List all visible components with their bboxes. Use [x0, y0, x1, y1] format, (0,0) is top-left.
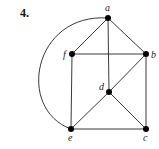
edge-f-e	[71, 54, 72, 129]
vertex-label-d: d	[99, 81, 105, 92]
edge-a-b	[108, 18, 146, 54]
vertex-label-a: a	[105, 2, 110, 13]
graph-diagram: abcdef	[0, 0, 159, 149]
graph-figure: 4. abcdef	[0, 0, 159, 149]
edge-a-d	[108, 18, 109, 92]
vertex-label-f: f	[63, 49, 67, 60]
edge-d-e	[71, 92, 109, 129]
edge-b-d	[109, 54, 146, 92]
vertex-b	[143, 51, 149, 57]
vertex-label-e: e	[68, 132, 73, 143]
vertex-d	[106, 89, 112, 95]
edge-a-e	[39, 18, 108, 129]
edge-d-c	[109, 92, 146, 129]
graph-labels: abcdef	[63, 2, 156, 143]
vertex-label-c: c	[143, 132, 148, 143]
problem-number: 4.	[20, 6, 29, 21]
vertex-f	[69, 51, 75, 57]
graph-edges	[39, 18, 146, 129]
vertex-a	[105, 15, 111, 21]
edge-a-f	[72, 18, 108, 54]
vertex-label-b: b	[151, 49, 156, 60]
